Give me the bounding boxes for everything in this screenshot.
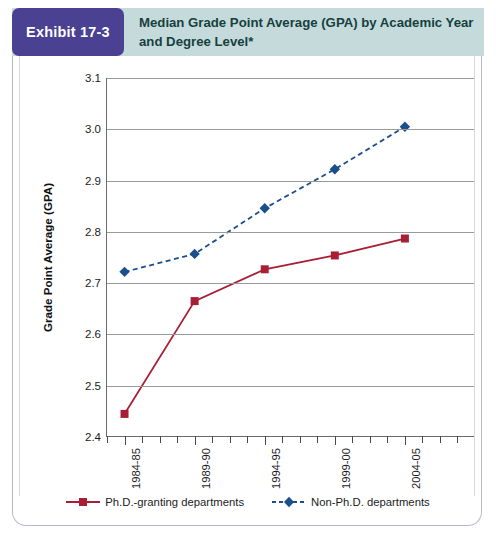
y-axis-tick-label: 2.6 [85, 328, 101, 340]
x-axis-minor-tick [352, 436, 353, 443]
x-axis-minor-tick [370, 436, 371, 443]
data-point-marker [121, 410, 129, 418]
data-point-marker [401, 235, 409, 243]
x-axis-minor-tick [177, 436, 178, 443]
x-axis-major-tick [405, 436, 406, 445]
y-axis-tick-label: 3.1 [85, 72, 101, 84]
data-point-marker [331, 251, 339, 259]
panel-rule-right [474, 56, 475, 496]
legend-square-icon [66, 496, 100, 508]
exhibit-number-badge: Exhibit 17-3 [12, 8, 124, 56]
gridline [107, 181, 474, 182]
legend-diamond-icon [272, 496, 306, 508]
x-axis-minor-tick [440, 436, 441, 443]
x-axis-major-tick [335, 436, 336, 445]
data-point-marker [119, 267, 129, 277]
gridline [107, 129, 474, 130]
legend-item[interactable]: Ph.D.-granting departments [66, 496, 244, 508]
x-axis-tick-label: 2004-05 [410, 448, 422, 489]
data-point-marker [400, 122, 410, 132]
y-axis-title-label: Grade Point Average (GPA) [42, 183, 55, 332]
series-line [125, 127, 405, 272]
x-axis-major-tick [125, 436, 126, 445]
series-line [125, 239, 405, 414]
data-point-marker [261, 265, 269, 273]
panel-rule-left [19, 56, 20, 496]
data-point-marker [189, 249, 199, 259]
x-axis-major-tick [265, 436, 266, 445]
gridline [107, 334, 474, 335]
gridline [107, 78, 474, 79]
y-axis-tick-label: 2.5 [85, 380, 101, 392]
exhibit-header: Exhibit 17-3 Median Grade Point Average … [12, 8, 484, 56]
x-axis-minor-tick [230, 436, 231, 443]
chart-panel: Grade Point Average (GPA) 2.42.52.62.72.… [12, 56, 482, 526]
x-axis-minor-tick [317, 436, 318, 443]
x-axis-tick-label: 1989-90 [200, 448, 212, 489]
x-axis-minor-tick [212, 436, 213, 443]
legend-item[interactable]: Non-Ph.D. departments [272, 496, 430, 508]
x-axis-minor-tick [422, 436, 423, 443]
x-axis-minor-tick [160, 436, 161, 443]
exhibit-title: Median Grade Point Average (GPA) by Acad… [124, 8, 484, 56]
gridline [107, 386, 474, 387]
x-axis-minor-tick [387, 436, 388, 443]
legend-label: Ph.D.-granting departments [105, 496, 244, 508]
x-axis-minor-tick [457, 436, 458, 443]
legend-label: Non-Ph.D. departments [311, 496, 430, 508]
y-axis-tick-label: 2.7 [85, 277, 101, 289]
y-axis-tick-label: 2.9 [85, 175, 101, 187]
data-point-marker [191, 297, 199, 305]
x-axis-tick-label: 1984-85 [130, 448, 142, 489]
exhibit-figure: Exhibit 17-3 Median Grade Point Average … [0, 0, 496, 539]
x-axis-minor-tick [247, 436, 248, 443]
data-point-marker [260, 203, 270, 213]
data-point-marker [330, 164, 340, 174]
y-axis-tick-label: 2.4 [85, 431, 101, 443]
gridline [107, 232, 474, 233]
x-axis-minor-tick [107, 436, 108, 443]
y-axis-title: Grade Point Average (GPA) [39, 78, 57, 437]
plot-area: 2.42.52.62.72.82.93.03.11984-851989-9019… [106, 78, 474, 437]
x-axis-minor-tick [300, 436, 301, 443]
y-axis-tick-label: 2.8 [85, 226, 101, 238]
series-layer [107, 78, 475, 437]
x-axis-major-tick [195, 436, 196, 445]
x-axis-tick-label: 1994-95 [270, 448, 282, 489]
x-axis-minor-tick [142, 436, 143, 443]
x-axis-tick-label: 1999-00 [340, 448, 352, 489]
y-axis-tick-label: 3.0 [85, 123, 101, 135]
x-axis-minor-tick [282, 436, 283, 443]
chart-legend: Ph.D.-granting departmentsNon-Ph.D. depa… [13, 496, 483, 508]
gridline [107, 283, 474, 284]
